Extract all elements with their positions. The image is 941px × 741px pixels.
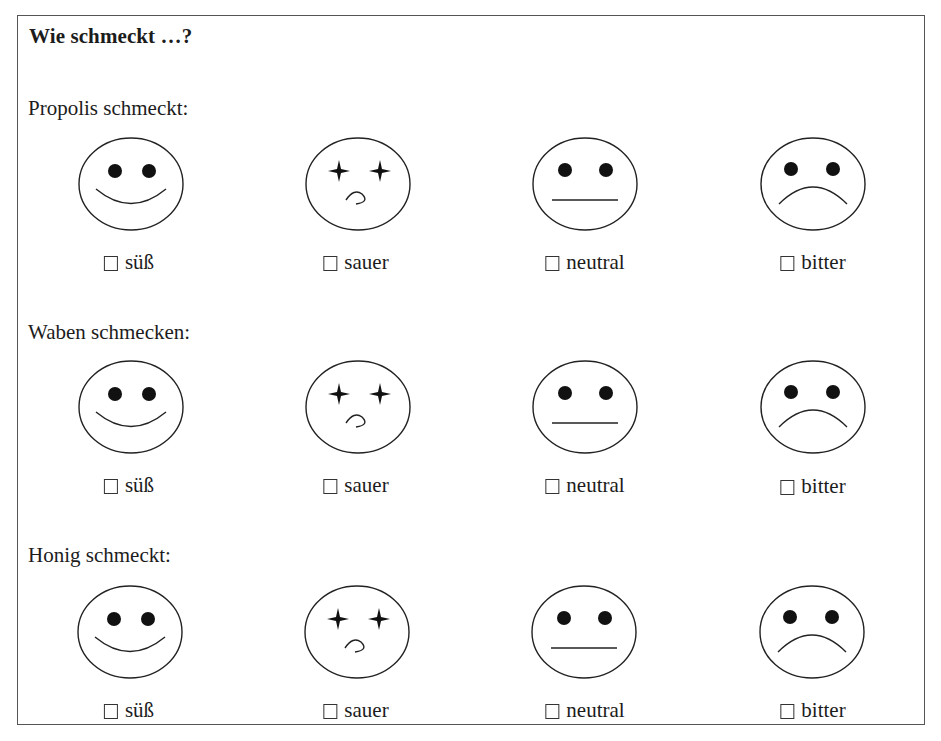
option-label: sauer — [344, 473, 388, 498]
option-label: sauer — [344, 250, 388, 275]
checkbox[interactable] — [545, 479, 559, 494]
neutral-face-icon — [530, 584, 638, 680]
checkbox[interactable] — [104, 704, 118, 719]
neutral-face-icon — [531, 359, 639, 455]
checkbox[interactable] — [104, 479, 118, 494]
sour-face-icon — [304, 359, 412, 455]
option-label: neutral — [566, 473, 624, 498]
happy-face-icon — [77, 136, 185, 232]
option-label: neutral — [566, 250, 624, 275]
option-label: sauer — [344, 698, 388, 723]
option-bitter[interactable]: bitter — [780, 474, 845, 499]
sour-face-icon — [303, 584, 411, 680]
neutral-face-icon — [531, 136, 639, 232]
option-label: süß — [125, 473, 154, 498]
sad-face-icon — [758, 584, 866, 680]
checkbox[interactable] — [323, 704, 337, 719]
option-suess[interactable]: süß — [104, 473, 154, 498]
checkbox[interactable] — [780, 704, 794, 719]
worksheet-title: Wie schmeckt …? — [29, 24, 192, 49]
checkbox[interactable] — [323, 256, 337, 271]
option-label: süß — [125, 250, 154, 275]
checkbox[interactable] — [780, 480, 794, 495]
section-label-honig: Honig schmeckt: — [28, 543, 171, 568]
sour-face-icon — [304, 136, 412, 232]
checkbox[interactable] — [323, 479, 337, 494]
checkbox[interactable] — [780, 256, 794, 271]
happy-face-icon — [76, 584, 184, 680]
option-neutral[interactable]: neutral — [545, 250, 624, 275]
section-label-waben: Waben schmecken: — [28, 320, 190, 345]
section-label-propolis: Propolis schmeckt: — [28, 96, 188, 121]
sad-face-icon — [759, 136, 867, 232]
option-sauer[interactable]: sauer — [323, 473, 388, 498]
option-label: neutral — [566, 698, 624, 723]
checkbox[interactable] — [545, 256, 559, 271]
option-sauer[interactable]: sauer — [323, 698, 388, 723]
option-suess[interactable]: süß — [104, 250, 154, 275]
sad-face-icon — [759, 359, 867, 455]
happy-face-icon — [77, 359, 185, 455]
option-label: bitter — [801, 698, 845, 723]
option-neutral[interactable]: neutral — [545, 698, 624, 723]
option-suess[interactable]: süß — [104, 698, 154, 723]
checkbox[interactable] — [104, 256, 118, 271]
option-label: bitter — [801, 250, 845, 275]
option-label: süß — [125, 698, 154, 723]
option-neutral[interactable]: neutral — [545, 473, 624, 498]
checkbox[interactable] — [545, 704, 559, 719]
option-label: bitter — [801, 474, 845, 499]
option-bitter[interactable]: bitter — [780, 698, 845, 723]
option-bitter[interactable]: bitter — [780, 250, 845, 275]
option-sauer[interactable]: sauer — [323, 250, 388, 275]
